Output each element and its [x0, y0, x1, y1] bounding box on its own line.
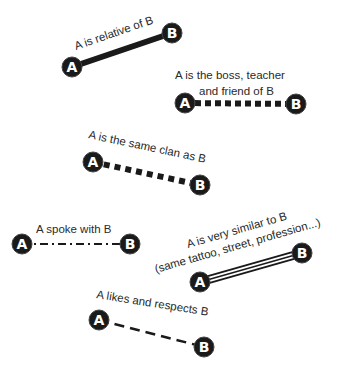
node-b: B [292, 243, 312, 263]
node-a: A [89, 310, 109, 330]
relation-label: A likes and respects B [96, 288, 210, 318]
relation-spoke: A spoke with B A B [12, 223, 140, 254]
node-a: A [190, 272, 210, 292]
relationship-diagram: A is relative of B A B A is the boss, te… [0, 0, 362, 372]
relation-label-line2: and friend of B [199, 85, 274, 97]
svg-text:A: A [195, 274, 206, 290]
node-a: A [12, 234, 32, 254]
node-b: B [120, 234, 140, 254]
node-a: A [62, 57, 82, 77]
relation-relative: A is relative of B A B [62, 14, 182, 77]
relation-label-line1: A is the boss, teacher [175, 69, 285, 81]
square-dotted-line [93, 162, 200, 185]
svg-text:A: A [88, 154, 99, 170]
svg-text:B: B [167, 25, 178, 41]
node-a: A [83, 152, 103, 172]
svg-text:B: B [195, 177, 206, 193]
node-a: A [175, 93, 195, 113]
node-b: B [162, 23, 182, 43]
relation-label: A is the same clan as B [88, 128, 208, 165]
node-b: B [286, 94, 306, 114]
svg-text:B: B [297, 245, 308, 261]
svg-text:B: B [291, 96, 302, 112]
svg-text:A: A [17, 236, 28, 252]
svg-text:A: A [67, 59, 78, 75]
relation-clan: A is the same clan as B A B [83, 128, 210, 195]
relation-likes: A likes and respects B A B [89, 288, 214, 357]
relation-similar: A is very similar to B (same tattoo, str… [153, 210, 322, 292]
svg-text:B: B [125, 236, 136, 252]
node-b: B [194, 337, 214, 357]
svg-text:B: B [199, 339, 210, 355]
svg-text:A: A [94, 312, 105, 328]
relation-label: A spoke with B [36, 223, 112, 235]
relation-boss: A is the boss, teacher and friend of B A… [175, 69, 306, 114]
svg-text:A: A [180, 95, 191, 111]
node-b: B [190, 175, 210, 195]
square-dotted-line [185, 103, 296, 104]
dashed-line [99, 320, 204, 347]
